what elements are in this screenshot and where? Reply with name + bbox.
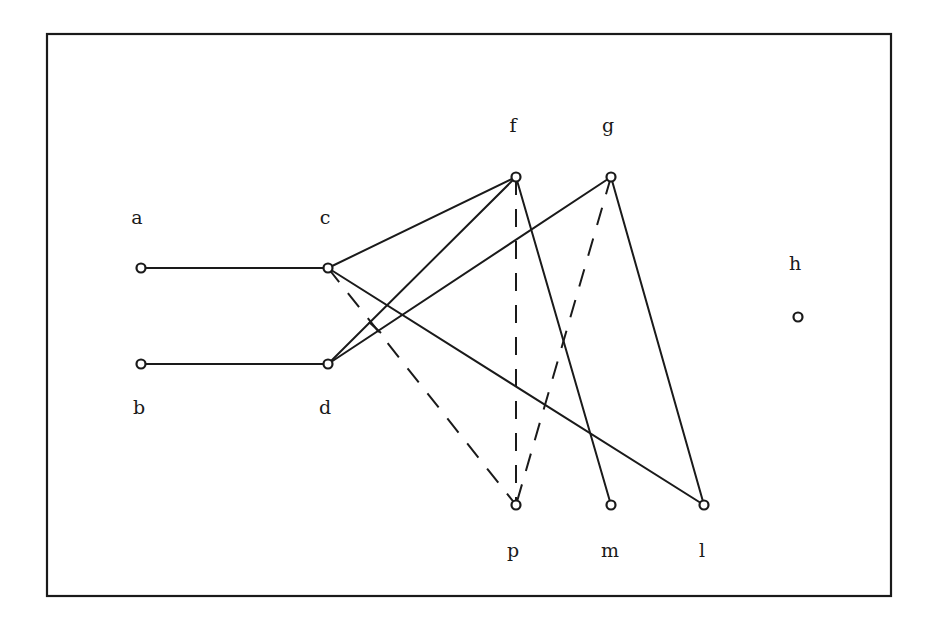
edges-group [141,177,704,505]
tick-marks-group [369,322,381,333]
node-label-d: d [319,396,331,418]
node-d [324,360,333,369]
node-p [512,501,521,510]
node-c [324,264,333,273]
node-label-h: h [789,252,801,274]
edge-c-f [328,177,516,268]
node-label-p: p [507,539,519,561]
edge-c-p [328,268,516,505]
node-label-m: m [601,539,619,561]
node-g [607,173,616,182]
node-label-f: f [509,114,518,136]
node-b [137,360,146,369]
node-h [794,313,803,322]
tick-mark [369,322,381,333]
edge-d-f [328,177,516,364]
node-f [512,173,521,182]
node-label-b: b [133,396,145,418]
node-a [137,264,146,273]
node-m [607,501,616,510]
graph-diagram: abcdfghpml [0,0,937,625]
node-l [700,501,709,510]
node-label-a: a [131,206,142,228]
edge-d-g [328,177,611,364]
diagram-frame [47,34,891,596]
node-label-c: c [320,206,331,228]
node-label-l: l [699,539,705,561]
node-label-g: g [602,114,614,136]
